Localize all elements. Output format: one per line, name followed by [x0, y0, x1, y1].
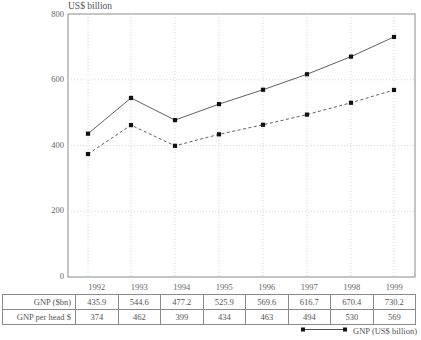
table-header-row: 1992 1993 1994 1995 1996 1997 1998 1999 — [3, 281, 416, 295]
table-cell: 730.2 — [373, 295, 416, 310]
table-cell: 569.6 — [246, 295, 289, 310]
table-row-label-gnp-bn: GNP ($bn) — [3, 295, 76, 310]
table-header-1993: 1993 — [118, 281, 161, 295]
data-point-marker — [305, 113, 309, 117]
data-point-marker — [173, 144, 177, 148]
legend-line-marker-icon — [300, 325, 348, 336]
data-point-marker — [261, 88, 265, 92]
table-cell: 435.9 — [76, 295, 119, 310]
table-cell: 374 — [76, 310, 119, 325]
table-row: GNP ($bn) 435.9 544.6 477.2 525.9 569.6 … — [3, 295, 416, 310]
data-point-marker — [392, 35, 396, 39]
plot-area — [0, 0, 421, 300]
table-cell: 462 — [118, 310, 161, 325]
table-header-1992: 1992 — [76, 281, 119, 295]
chart-region: US$ billion 800 600 400 200 0 — [0, 0, 421, 300]
data-point-marker — [305, 72, 309, 76]
table-cell: 477.2 — [161, 295, 204, 310]
table-header-corner — [3, 281, 76, 295]
data-point-marker — [86, 152, 90, 156]
table-cell: 544.6 — [118, 295, 161, 310]
table-cell: 616.7 — [288, 295, 331, 310]
vertical-gridlines — [88, 14, 394, 277]
data-point-marker — [392, 88, 396, 92]
table-cell: 463 — [246, 310, 289, 325]
table-cell: 530 — [331, 310, 374, 325]
data-point-marker — [217, 102, 221, 106]
data-point-marker — [261, 123, 265, 127]
table-header-1994: 1994 — [161, 281, 204, 295]
data-table: 1992 1993 1994 1995 1996 1997 1998 1999 … — [2, 281, 416, 325]
data-point-marker — [129, 96, 133, 100]
table-cell: 670.4 — [331, 295, 374, 310]
data-point-marker — [349, 55, 353, 59]
data-point-marker — [349, 101, 353, 105]
chart-legend: GNP (US$ billion) — [0, 325, 417, 336]
data-point-marker — [129, 123, 133, 127]
table-cell: 434 — [203, 310, 246, 325]
table-header-1996: 1996 — [246, 281, 289, 295]
data-point-marker — [217, 132, 221, 136]
table-cell: 525.9 — [203, 295, 246, 310]
table-header-1995: 1995 — [203, 281, 246, 295]
table-cell: 399 — [161, 310, 204, 325]
legend-label: GNP (US$ billion) — [353, 326, 417, 336]
data-point-marker — [173, 118, 177, 122]
table-cell: 494 — [288, 310, 331, 325]
table-header-1997: 1997 — [288, 281, 331, 295]
series-line-gnp-billion — [88, 37, 394, 134]
series-markers-gnp-billion — [86, 35, 396, 136]
table-header-1998: 1998 — [331, 281, 374, 295]
data-point-marker — [86, 132, 90, 136]
table-cell: 569 — [373, 310, 416, 325]
table-header-1999: 1999 — [373, 281, 416, 295]
table-row: GNP per head $ 374 462 399 434 463 494 5… — [3, 310, 416, 325]
table-row-label-gnp-per-head: GNP per head $ — [3, 310, 76, 325]
